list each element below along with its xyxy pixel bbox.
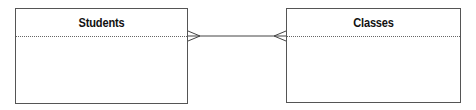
relationship-connector[interactable] (0, 0, 476, 110)
